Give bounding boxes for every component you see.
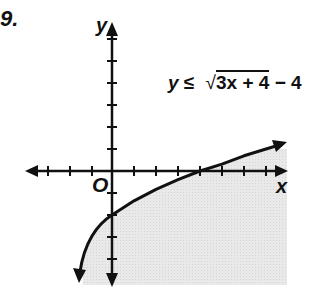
graph-canvas	[0, 0, 313, 303]
x-axis-label: x	[276, 175, 287, 198]
inequality-tail: − 4	[269, 72, 301, 93]
inequality-lhs: y	[168, 72, 179, 93]
radical-symbol: √	[206, 72, 216, 93]
shaded-region	[83, 149, 287, 285]
inequality-operator: ≤	[184, 72, 194, 93]
y-axis-label: y	[96, 14, 107, 37]
radicand: 3x + 4	[216, 70, 269, 93]
inequality-label: y ≤ √3x + 4 − 4	[168, 72, 302, 94]
origin-label: O	[92, 173, 108, 197]
